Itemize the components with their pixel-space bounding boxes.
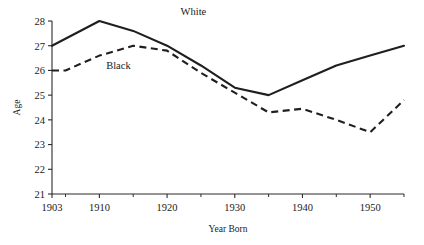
- axis-frame: [52, 21, 404, 194]
- y-tick-label: 27: [35, 41, 46, 52]
- y-axis-title: Age: [12, 100, 22, 116]
- series-annotations: WhiteBlack: [106, 6, 206, 71]
- y-tick-label: 21: [35, 189, 46, 200]
- y-tick-label: 25: [35, 90, 46, 101]
- series-label-black: Black: [106, 60, 131, 71]
- x-tick-label: 1950: [360, 202, 381, 213]
- x-tick-label: 1920: [157, 202, 178, 213]
- y-tick-label: 26: [35, 65, 46, 76]
- chart-container: 2122232425262728 19031910192019301940195…: [0, 0, 424, 245]
- y-tick-label: 24: [35, 115, 46, 126]
- x-tick-label: 1903: [42, 202, 63, 213]
- line-chart: 2122232425262728 19031910192019301940195…: [0, 0, 424, 245]
- series-line-white: [52, 21, 404, 95]
- x-axis-title: Year Born: [209, 224, 248, 234]
- x-tick-label: 1940: [292, 202, 313, 213]
- y-axis-ticks: 2122232425262728: [35, 16, 53, 200]
- y-tick-label: 23: [35, 139, 46, 150]
- x-tick-label: 1910: [89, 202, 110, 213]
- y-tick-label: 22: [35, 164, 46, 175]
- y-tick-label: 28: [35, 16, 46, 27]
- series-layer: [52, 21, 404, 132]
- x-tick-label: 1930: [224, 202, 245, 213]
- series-label-white: White: [181, 6, 207, 17]
- series-line-black: [52, 46, 404, 133]
- x-axis-ticks: 190319101920193019401950: [42, 194, 405, 213]
